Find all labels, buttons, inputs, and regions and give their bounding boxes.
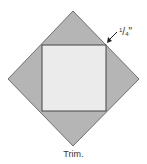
quarter-inch-label: 1/4" bbox=[119, 26, 132, 37]
trim-diagram bbox=[0, 0, 147, 164]
diagram-caption: Trim. bbox=[0, 149, 147, 159]
arrow-icon bbox=[107, 32, 117, 43]
inch-mark: " bbox=[128, 26, 132, 37]
fraction-numerator: 1 bbox=[119, 27, 122, 33]
inner-square bbox=[42, 45, 106, 111]
